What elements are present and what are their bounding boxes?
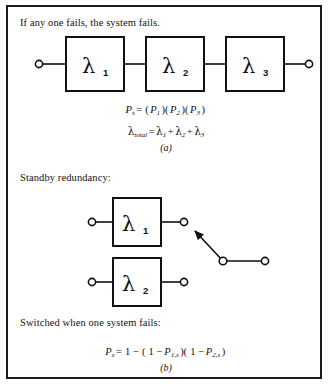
terminal-lower-input [88,278,95,285]
series-block-1-lambda: λ [82,54,95,78]
series-block-3-lambda: λ [242,54,255,78]
standby-success-probability-formula: Ps=1−(1−P1,s)(1−P2,s) [8,345,324,358]
series-caption: If any one fails, the system fails. [20,17,160,29]
terminal-lower-output [180,278,187,285]
standby-redundancy-diagram: λ 1 λ 2 [8,189,324,309]
series-block-2-lambda: λ [162,54,175,78]
series-total-failure-rate-formula: λtotal=λ1+λ2+λ3 [8,125,324,138]
switched-caption: Switched when one system fails: [20,317,161,329]
switch-arm[interactable] [195,231,223,261]
terminal-input [35,60,42,67]
standby-caption: Standby redundancy: [20,172,111,184]
series-reliability-diagram: λ 1 λ 2 λ 3 [8,29,324,99]
standby-block-2 [113,258,161,306]
terminal-upper-output [180,218,187,225]
standby-block-2-lambda: λ [122,272,135,296]
series-block-1-subscript: 1 [103,67,109,78]
standby-block-1-subscript: 1 [143,225,149,236]
standby-block-2-subscript: 2 [143,285,148,296]
terminal-output [305,60,312,67]
series-block-3-subscript: 3 [263,67,268,78]
standby-block-1 [113,198,161,246]
terminal-switch-output [261,257,268,264]
subfigure-label-a: (a) [8,142,324,153]
subfigure-label-b: (b) [8,362,324,373]
series-block-2-subscript: 2 [183,67,188,78]
series-success-probability-formula: Ps=(P1)(P2)(P3) [8,103,324,116]
switch-pivot[interactable] [219,257,227,265]
figure-panel: If any one fails, the system fails. λ 1 … [6,5,322,379]
terminal-upper-input [88,218,95,225]
standby-block-1-lambda: λ [122,212,135,236]
